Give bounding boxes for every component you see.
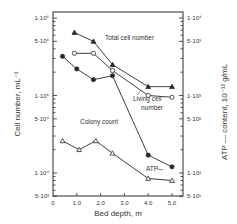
- y-right-tick-label: 1·10²: [187, 170, 201, 176]
- x-tick-label: 2.0: [96, 200, 105, 206]
- y-right-tick-label: 5·10²: [187, 116, 201, 122]
- x-tick-label: 5.0: [168, 200, 177, 206]
- y-left-tick-label: 1·10⁶: [35, 15, 50, 21]
- label-colony-count: Colony count: [80, 118, 118, 126]
- x-tick-label: 0: [51, 200, 55, 206]
- x-tick-label: 3.0: [120, 200, 129, 206]
- x-axis: 01.02.03.04.05.0: [51, 193, 177, 206]
- x-tick-label: 4.0: [144, 200, 153, 206]
- y-right-tick-label: 5·10¹: [187, 193, 201, 199]
- y-axis-right-title: ATP — content, 10⁻¹² g/mL: [220, 63, 229, 160]
- y-axis-left: 1·10⁶5·10⁵1·10⁵5·10⁴1·10⁴5·10³: [34, 15, 57, 199]
- x-axis-title: Bed depth, m: [94, 209, 142, 218]
- label-atp: ATP: [146, 165, 158, 172]
- series-atp: [60, 138, 174, 182]
- y-left-tick-label: 1·10⁵: [35, 93, 50, 99]
- y-right-tick-label: 1·10³: [187, 93, 201, 99]
- label-living-cell: Living cell: [133, 95, 162, 103]
- y-axis-right: 1·10⁴5·10³1·10³5·10²1·10²5·10¹: [179, 15, 202, 199]
- y-left-tick-label: 1·10⁴: [34, 170, 49, 176]
- label-living-number: number: [141, 104, 164, 111]
- y-right-tick-label: 5·10³: [187, 38, 201, 44]
- y-axis-left-title: Cell number, mL⁻¹: [13, 71, 22, 136]
- y-left-tick-label: 5·10⁵: [35, 38, 50, 44]
- y-right-tick-label: 1·10⁴: [187, 15, 202, 21]
- series-living-cell-number: [72, 51, 174, 99]
- y-left-tick-label: 5·10³: [35, 193, 49, 199]
- label-total-cell-number: Total cell number: [105, 34, 155, 41]
- x-tick-label: 1.0: [73, 200, 82, 206]
- chart: 1·10⁶5·10⁵1·10⁵5·10⁴1·10⁴5·10³1·10⁴5·10³…: [0, 0, 237, 224]
- y-left-tick-label: 5·10⁴: [34, 116, 49, 122]
